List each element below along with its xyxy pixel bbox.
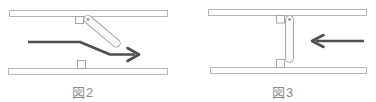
bottom-plate: [9, 69, 168, 75]
stopper-notch-bottom: [277, 60, 285, 68]
figure-3-closed-valve: [209, 10, 367, 74]
stopper-notch-top: [277, 16, 285, 24]
top-plate: [209, 10, 367, 16]
bottom-plate: [211, 68, 367, 74]
stopper-notch-bottom: [78, 61, 86, 69]
figure-3-label: 図3: [253, 82, 313, 101]
pivot-dot: [288, 18, 291, 21]
valve-flap: [286, 16, 294, 63]
figure-2-open-valve: [9, 11, 168, 75]
pivot-dot: [87, 18, 90, 21]
check-valve-diagram: 図2 図3: [0, 0, 376, 102]
figure-2-label: 図2: [53, 82, 113, 101]
stopper-notch-top: [76, 17, 84, 24]
